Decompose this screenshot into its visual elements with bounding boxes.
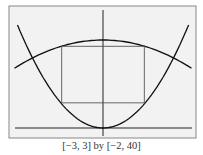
window-caption: [−3, 3] by [−2, 40]: [0, 140, 203, 151]
graph-window: [0, 0, 203, 140]
